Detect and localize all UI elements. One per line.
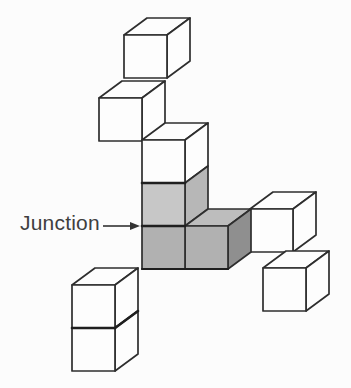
upper-left-cube-front-face [99,98,142,141]
bottom-stack-top-cube-front-face [72,285,115,328]
cube-diagram [0,0,351,388]
column-top-cube-front-face [142,140,185,183]
junction-cube-front-face [142,226,185,269]
shaded-upper-cube-front-face [142,183,185,226]
right-upper-white-cube-front-face [250,209,293,252]
junction-label: Junction [20,212,100,233]
right-lower-white-cube-front-face [263,268,306,311]
bottom-stack-bottom-cube-front-face [72,328,115,371]
top-cube-front-face [124,35,167,78]
junction-arrow-head-icon [130,222,140,230]
shaded-right-cube-front-face [185,226,228,269]
cube-junction-figure: Junction [0,0,351,388]
